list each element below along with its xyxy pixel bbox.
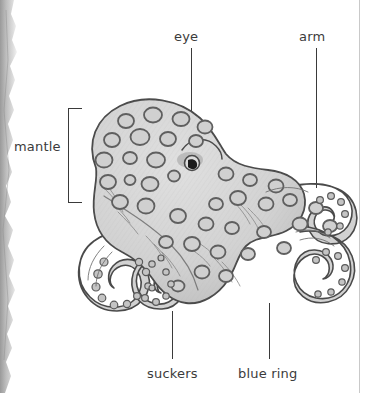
leader-line-blue-ring bbox=[269, 303, 270, 359]
leader-line-eye bbox=[191, 48, 192, 124]
label-mantle: mantle bbox=[14, 139, 61, 154]
label-eye: eye bbox=[174, 29, 198, 44]
label-blue-ring: blue ring bbox=[238, 366, 297, 381]
blue-ringed-octopus-illustration bbox=[0, 0, 370, 393]
leader-line-suckers bbox=[172, 311, 173, 359]
page-right-rule bbox=[359, 0, 360, 393]
page-torn-edge-icon bbox=[0, 0, 24, 393]
label-arm: arm bbox=[299, 29, 325, 44]
label-suckers: suckers bbox=[147, 366, 198, 381]
mantle-bracket bbox=[68, 108, 82, 203]
figure-page: mantle eye arm suckers blue ring bbox=[0, 0, 370, 393]
leader-line-arm bbox=[316, 48, 317, 188]
